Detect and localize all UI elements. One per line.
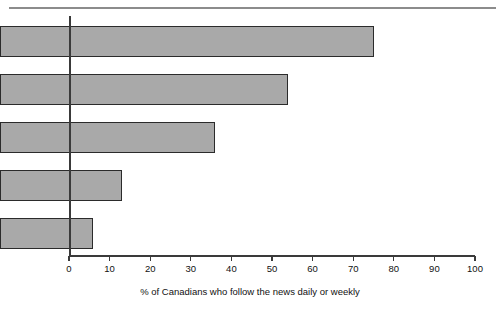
- x-axis-tick-label-80: 80: [374, 263, 414, 274]
- bar-row-newspaper: [0, 74, 406, 105]
- x-axis-tick-60: [312, 256, 313, 261]
- bar-radio: [0, 122, 215, 153]
- x-axis-tick-10: [109, 256, 110, 261]
- x-axis-tick-label-60: 60: [293, 263, 333, 274]
- x-axis-tick-label-20: 20: [130, 263, 170, 274]
- bar-row-internet: [0, 170, 406, 201]
- x-axis-tick-label-50: 50: [252, 263, 292, 274]
- bar-row-television: [0, 26, 406, 57]
- bar-row-radio: [0, 122, 406, 153]
- x-axis-title: % of Canadians who follow the news daily…: [0, 286, 500, 297]
- header-divider-rule: [9, 7, 496, 9]
- x-axis-tick-0: [68, 256, 69, 261]
- bar-chart-figure: Television Newspaper Radio Internet Maga…: [0, 0, 500, 311]
- x-axis-tick-40: [231, 256, 232, 261]
- bar-newspaper: [0, 74, 288, 105]
- bar-magazines: [0, 218, 93, 249]
- x-axis-tick-50: [271, 256, 272, 261]
- bar-television: [0, 26, 374, 57]
- x-axis-tick-label-40: 40: [211, 263, 251, 274]
- x-axis-tick-70: [353, 256, 354, 261]
- x-axis-tick-20: [150, 256, 151, 261]
- x-axis-tick-label-30: 30: [171, 263, 211, 274]
- x-axis-tick-30: [190, 256, 191, 261]
- bar-row-magazines: [0, 218, 406, 249]
- x-axis-tick-100: [474, 256, 475, 261]
- x-axis-tick-80: [393, 256, 394, 261]
- x-axis-tick-label-100: 100: [455, 263, 495, 274]
- x-axis-tick-90: [434, 256, 435, 261]
- x-axis-tick-label-0: 0: [49, 263, 89, 274]
- x-axis-tick-label-70: 70: [333, 263, 373, 274]
- y-axis-line: [69, 16, 71, 256]
- bar-internet: [0, 170, 122, 201]
- x-axis-tick-label-90: 90: [414, 263, 454, 274]
- x-axis-tick-label-10: 10: [90, 263, 130, 274]
